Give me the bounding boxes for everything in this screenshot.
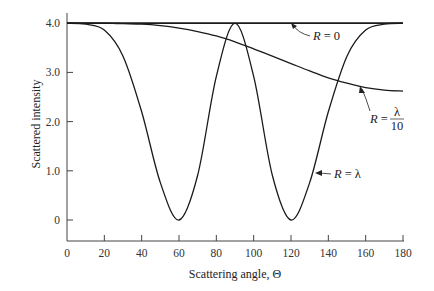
y-tick-label: 2.0: [46, 116, 61, 128]
x-tick-label: 180: [394, 247, 412, 259]
arrowhead-icon: [315, 170, 322, 176]
y-ticks: 01.02.03.04.0: [46, 17, 73, 226]
line-r-lambda: [67, 23, 403, 220]
x-tick-label: 140: [320, 247, 338, 259]
x-axis-title: Scattering angle, Θ: [189, 267, 282, 281]
label-r-lambda-10: R=: [369, 112, 388, 126]
x-tick-label: 160: [357, 247, 375, 259]
x-tick-label: 80: [211, 247, 223, 259]
line-r-lambda-10: [67, 23, 403, 91]
annotation-r-lambda: R=λ: [315, 167, 361, 181]
x-tick-label: 100: [245, 247, 263, 259]
y-axis-title: Scattered intensity: [29, 80, 43, 169]
x-tick-label: 20: [99, 247, 111, 259]
y-tick-label: 4.0: [46, 17, 61, 29]
x-tick-label: 40: [136, 247, 148, 259]
x-tick-label: 60: [173, 247, 185, 259]
y-tick-label: 1.0: [46, 165, 61, 177]
scattering-intensity-chart: 020406080100120140160180 01.02.03.04.0 S…: [0, 0, 434, 291]
y-tick-label: 0: [54, 214, 60, 226]
annotation-r-zero: R=0: [291, 23, 340, 43]
x-tick-label: 0: [64, 247, 70, 259]
x-ticks: 020406080100120140160180: [64, 235, 412, 259]
label-r-zero: R=0: [312, 29, 340, 43]
y-tick-label: 3.0: [46, 66, 61, 78]
label-fraction-den: 10: [391, 119, 404, 133]
axes: [67, 13, 404, 241]
annotation-r-lambda-10: R= λ 10: [359, 86, 404, 133]
label-fraction-num: λ: [394, 105, 400, 119]
x-tick-label: 120: [282, 247, 300, 259]
series-lines: [67, 23, 403, 220]
label-r-lambda: R=λ: [333, 167, 361, 181]
